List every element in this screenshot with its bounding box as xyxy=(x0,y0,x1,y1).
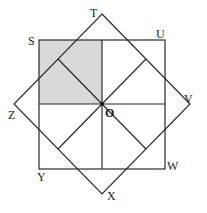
label-Z: Z xyxy=(8,108,15,122)
label-W: W xyxy=(167,159,179,173)
label-V: V xyxy=(184,92,193,106)
label-T: T xyxy=(90,6,98,20)
label-S: S xyxy=(28,34,35,48)
center-point-O xyxy=(100,102,104,106)
segment-O-upper-right xyxy=(102,59,146,104)
geometry-diagram: S T U V W X Y Z O xyxy=(0,0,207,213)
label-X: X xyxy=(107,189,116,203)
label-U: U xyxy=(156,27,165,41)
label-Y: Y xyxy=(37,170,46,184)
segment-O-lower-left xyxy=(58,104,102,149)
label-O: O xyxy=(105,106,114,120)
